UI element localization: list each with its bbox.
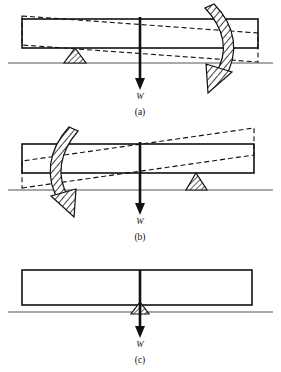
figure-root: W (a) W [0,0,281,372]
beam-fulcrum-diagram: W (a) W [0,0,281,372]
beam-solid-c [22,270,252,305]
panel-caption-c: (c) [135,355,146,366]
panel-caption-b: (b) [134,232,145,243]
panel-caption-a: (a) [135,107,146,118]
